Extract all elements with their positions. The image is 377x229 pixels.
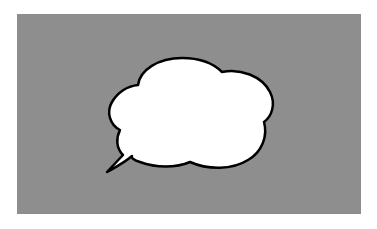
- cloud-bubble-shape: [107, 58, 273, 172]
- speech-bubble: [0, 0, 377, 229]
